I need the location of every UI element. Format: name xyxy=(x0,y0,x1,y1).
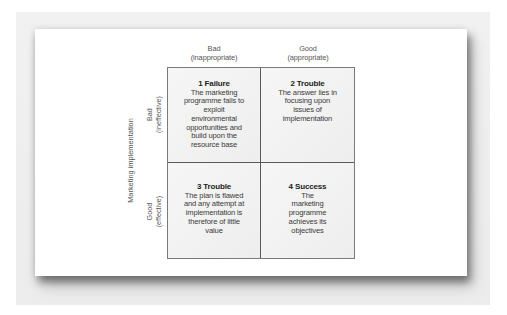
column-header-sublabel: (inappropriate) xyxy=(167,53,261,62)
cell-body: The plan is flawed and any attempt at im… xyxy=(183,192,245,236)
column-header-bad: Bad (inappropriate) xyxy=(167,44,261,62)
row-header-good: Good (effective) xyxy=(146,177,163,247)
cell-body: The marketing programme achieves its obj… xyxy=(285,192,331,236)
column-header-sublabel: (appropriate) xyxy=(261,53,355,62)
cell-body: The answer lies in focusing upon issues … xyxy=(278,89,338,124)
cell-failure: 1 Failure The marketing programme fails … xyxy=(168,68,261,163)
matrix-grid: 1 Failure The marketing programme fails … xyxy=(167,67,355,259)
column-header-good: Good (appropriate) xyxy=(261,44,355,62)
y-axis-label: Marketing implementation xyxy=(126,101,135,221)
column-header-label: Good xyxy=(261,44,355,53)
cell-trouble-strategy: 2 Trouble The answer lies in focusing up… xyxy=(261,68,354,163)
row-header-sublabel: (ineffective) xyxy=(155,80,164,150)
row-header-sublabel: (effective) xyxy=(155,177,164,247)
cell-trouble-plan: 3 Trouble The plan is flawed and any att… xyxy=(168,163,261,258)
cell-body: The marketing programme fails to exploit… xyxy=(183,89,245,150)
row-header-bad: Bad (ineffective) xyxy=(146,80,163,150)
column-header-label: Bad xyxy=(167,44,261,53)
cell-success: 4 Success The marketing programme achiev… xyxy=(261,163,354,258)
